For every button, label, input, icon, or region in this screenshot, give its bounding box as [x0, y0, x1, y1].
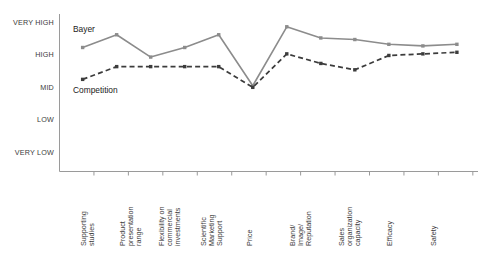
x-axis-labels: Supporting studiesProduct presentation r…	[0, 0, 484, 253]
x-axis-label: Efficacy	[386, 176, 394, 246]
x-axis-label: Product presentation range	[119, 176, 143, 246]
x-axis-label: Safety	[430, 176, 438, 246]
x-axis-label: Scientific Marketing Support	[200, 176, 224, 246]
x-axis-label: Sales organization capacity	[338, 176, 362, 246]
x-axis-label: Price	[246, 176, 254, 246]
x-axis-label: Supporting studies	[80, 176, 96, 246]
line-chart: VERY HIGH HIGH MID LOW VERY LOW Bayer Co…	[0, 0, 484, 253]
x-axis-label: Flexibility on commercial investments	[158, 176, 182, 246]
x-axis-label: Brand/ Image/ Reputation	[289, 176, 313, 246]
